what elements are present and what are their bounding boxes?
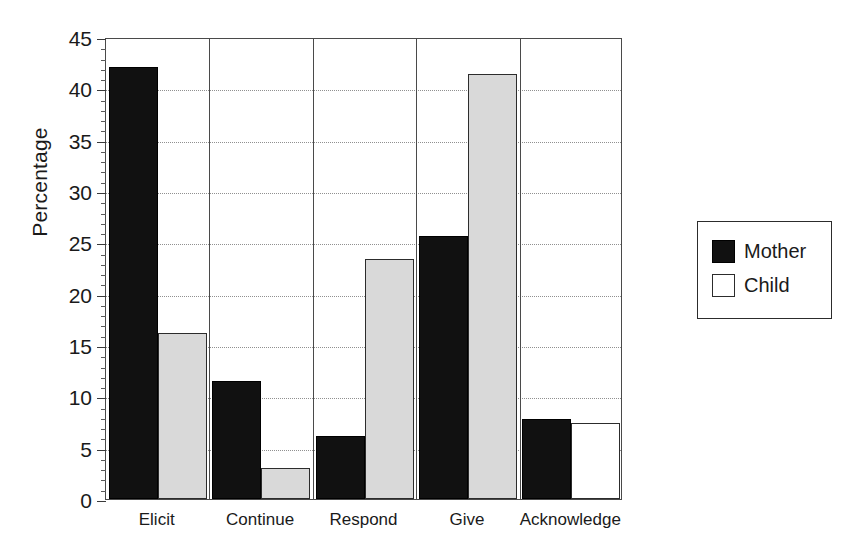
y-axis-tick-label: 10 (69, 386, 92, 410)
y-axis-minor-tick (101, 316, 106, 317)
gridline (106, 90, 621, 91)
y-axis-minor-tick (101, 60, 106, 61)
legend-swatch-mother-icon (712, 240, 735, 263)
group-separator (520, 39, 521, 499)
y-axis-tick (97, 90, 106, 91)
legend-item-child: Child (712, 268, 831, 302)
y-axis-minor-tick (101, 224, 106, 225)
bar-give-child (468, 74, 517, 499)
bar-continue-mother (212, 381, 261, 499)
y-axis-minor-tick (101, 460, 106, 461)
x-axis-tick-label: Continue (226, 510, 294, 530)
bar-chart-figure: Percentage 051015202530354045 ElicitCont… (0, 0, 868, 554)
y-axis-minor-tick (101, 70, 106, 71)
y-axis-minor-tick (101, 255, 106, 256)
y-axis-tick-label: 15 (69, 335, 92, 359)
y-axis-tick-label: 45 (69, 27, 92, 51)
bar-elicit-mother (109, 67, 158, 499)
y-axis-title: Percentage (28, 82, 52, 282)
y-axis-minor-tick (101, 265, 106, 266)
y-axis-minor-tick (101, 337, 106, 338)
y-axis-tick-label: 40 (69, 78, 92, 102)
y-axis-minor-tick (101, 172, 106, 173)
y-axis-minor-tick (101, 152, 106, 153)
y-axis-minor-tick (101, 101, 106, 102)
bar-respond-child (365, 259, 414, 499)
y-axis-tick-label: 25 (69, 232, 92, 256)
y-axis-tick (97, 501, 106, 502)
y-axis-minor-tick (101, 419, 106, 420)
y-axis-minor-tick (101, 470, 106, 471)
y-axis-minor-tick (101, 429, 106, 430)
bar-respond-mother (316, 436, 365, 499)
group-separator (416, 39, 417, 499)
bar-acknowledge-child (571, 423, 620, 499)
bar-continue-child (261, 468, 310, 499)
y-axis-tick-label: 35 (69, 130, 92, 154)
y-axis-tick (97, 39, 106, 40)
bar-give-mother (419, 236, 468, 499)
legend-label-mother: Mother (744, 240, 806, 263)
y-axis-minor-tick (101, 480, 106, 481)
x-axis-tick-label: Elicit (139, 510, 175, 530)
y-axis-tick-label: 0 (80, 489, 92, 513)
y-axis-minor-tick (101, 49, 106, 50)
y-axis-minor-tick (101, 388, 106, 389)
y-axis-tick-label: 30 (69, 181, 92, 205)
y-axis-tick (97, 142, 106, 143)
legend-label-child: Child (744, 274, 790, 297)
y-axis-minor-tick (101, 368, 106, 369)
y-axis-minor-tick (101, 183, 106, 184)
group-separator (313, 39, 314, 499)
y-axis-minor-tick (101, 234, 106, 235)
x-axis-tick-label: Respond (329, 510, 397, 530)
y-axis-minor-tick (101, 491, 106, 492)
y-axis-tick (97, 296, 106, 297)
bar-acknowledge-mother (522, 419, 571, 499)
y-axis-tick (97, 193, 106, 194)
gridline (106, 142, 621, 143)
y-axis-minor-tick (101, 326, 106, 327)
y-axis-tick (97, 398, 106, 399)
plot-area: 051015202530354045 (105, 38, 622, 500)
gridline (106, 296, 621, 297)
x-axis-tick-label: Acknowledge (520, 510, 621, 530)
gridline (106, 193, 621, 194)
chart-legend: Mother Child (697, 221, 832, 319)
y-axis-minor-tick (101, 80, 106, 81)
y-axis-minor-tick (101, 111, 106, 112)
gridline (106, 244, 621, 245)
y-axis-tick (97, 244, 106, 245)
group-separator (209, 39, 210, 499)
y-axis-minor-tick (101, 131, 106, 132)
y-axis-minor-tick (101, 214, 106, 215)
y-axis-minor-tick (101, 285, 106, 286)
y-axis-minor-tick (101, 203, 106, 204)
legend-swatch-child-icon (712, 274, 735, 297)
y-axis-tick-label: 5 (80, 438, 92, 462)
y-axis-minor-tick (101, 378, 106, 379)
y-axis-minor-tick (101, 275, 106, 276)
legend-item-mother: Mother (712, 234, 831, 268)
y-axis-minor-tick (101, 409, 106, 410)
y-axis-minor-tick (101, 162, 106, 163)
y-axis-minor-tick (101, 357, 106, 358)
y-axis-minor-tick (101, 121, 106, 122)
y-axis-minor-tick (101, 439, 106, 440)
y-axis-tick (97, 450, 106, 451)
y-axis-minor-tick (101, 306, 106, 307)
y-axis-tick (97, 347, 106, 348)
bar-elicit-child (158, 333, 207, 499)
x-axis-tick-label: Give (449, 510, 484, 530)
y-axis-tick-label: 20 (69, 284, 92, 308)
